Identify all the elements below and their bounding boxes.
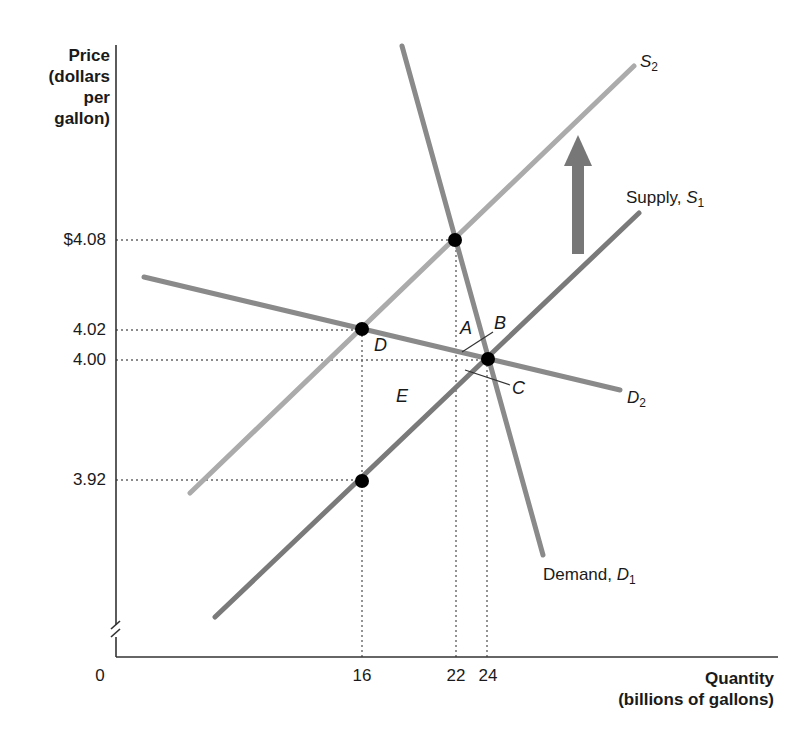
shift-arrow-icon bbox=[564, 135, 592, 254]
chart-canvas bbox=[0, 0, 798, 754]
s1-letter: S bbox=[686, 188, 697, 207]
x-axis-title: Quantity (billions of gallons) bbox=[618, 668, 774, 710]
s2-label: S2 bbox=[640, 52, 658, 74]
y-tick-402: 4.02 bbox=[26, 320, 106, 340]
d2-subscript: 2 bbox=[639, 396, 646, 410]
s1-prefix: Supply, bbox=[626, 188, 686, 207]
y-title-line: Price bbox=[20, 45, 110, 66]
point-16-402 bbox=[355, 322, 369, 336]
area-label-b: B bbox=[494, 313, 506, 334]
y-axis-title: Price (dollars per gallon) bbox=[20, 45, 110, 129]
axes bbox=[111, 45, 778, 657]
demand-d2-line bbox=[144, 277, 620, 390]
point-16-392 bbox=[355, 474, 369, 488]
s2-subscript: 2 bbox=[651, 60, 658, 74]
d2-letter: D bbox=[627, 388, 639, 407]
y-title-line: gallon) bbox=[20, 108, 110, 129]
area-label-c: C bbox=[512, 378, 525, 399]
area-label-d: D bbox=[374, 335, 387, 356]
guide-lines bbox=[116, 240, 487, 657]
d1-label: Demand, D1 bbox=[543, 565, 636, 587]
point-22-408 bbox=[448, 233, 462, 247]
y-tick-408: $4.08 bbox=[26, 230, 106, 250]
y-title-line: (dollars bbox=[20, 66, 110, 87]
s1-subscript: 1 bbox=[698, 196, 705, 210]
x-title-line: Quantity bbox=[618, 668, 774, 689]
d2-label: D2 bbox=[627, 388, 646, 410]
area-label-e: E bbox=[396, 386, 408, 407]
s1-label: Supply, S1 bbox=[626, 188, 704, 210]
axis-break-mark-2 bbox=[111, 629, 120, 637]
y-title-line: per bbox=[20, 87, 110, 108]
d1-letter: D bbox=[617, 565, 629, 584]
pointer-c bbox=[465, 370, 510, 385]
demand-d1-line bbox=[402, 46, 543, 555]
x-tick-16: 16 bbox=[342, 666, 382, 686]
d1-subscript: 1 bbox=[629, 573, 636, 587]
x-tick-24: 24 bbox=[468, 666, 508, 686]
d1-prefix: Demand, bbox=[543, 565, 617, 584]
y-tick-400: 4.00 bbox=[26, 350, 106, 370]
area-label-a: A bbox=[460, 318, 472, 339]
y-tick-392: 3.92 bbox=[26, 470, 106, 490]
x-title-line: (billions of gallons) bbox=[618, 689, 774, 710]
supply-s1-line bbox=[215, 213, 639, 617]
x-tick-0: 0 bbox=[80, 666, 120, 686]
s2-letter: S bbox=[640, 52, 651, 71]
point-24-400 bbox=[481, 352, 495, 366]
